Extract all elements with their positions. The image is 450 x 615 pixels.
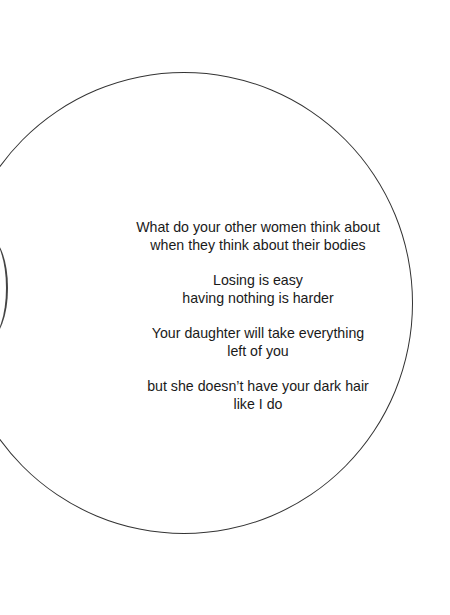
poem-line: Your daughter will take everything bbox=[108, 324, 408, 342]
stanza: What do your other women think about whe… bbox=[108, 218, 408, 254]
poem-line: Losing is easy bbox=[108, 271, 408, 289]
poem-line: left of you bbox=[108, 342, 408, 360]
stanza: Your daughter will take everything left … bbox=[108, 324, 408, 360]
poem-line: but she doesn’t have your dark hair bbox=[108, 377, 408, 395]
poem-text: What do your other women think about whe… bbox=[108, 218, 408, 430]
stanza: but she doesn’t have your dark hair like… bbox=[108, 377, 408, 413]
poem-line: What do your other women think about bbox=[108, 218, 408, 236]
poem-line: like I do bbox=[108, 395, 408, 413]
poem-line: when they think about their bodies bbox=[108, 236, 408, 254]
stanza: Losing is easy having nothing is harder bbox=[108, 271, 408, 307]
poem-line: having nothing is harder bbox=[108, 289, 408, 307]
